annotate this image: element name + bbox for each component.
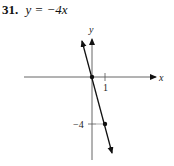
graph: x y 1 −4 <box>0 0 174 166</box>
line-y-neg4x <box>82 41 97 97</box>
point-1-neg4 <box>103 122 107 126</box>
x-axis-label: x <box>158 72 164 83</box>
y-axis-label: y <box>88 24 94 35</box>
y-tick-neg4-label: −4 <box>73 119 84 130</box>
point-origin <box>90 75 94 79</box>
x-tick-1-label: 1 <box>103 82 108 93</box>
